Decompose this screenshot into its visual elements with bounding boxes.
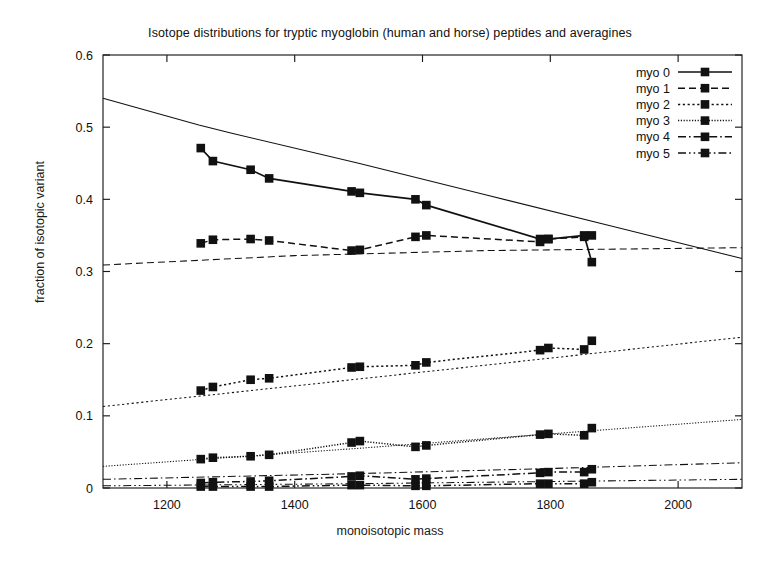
data-point — [422, 482, 431, 491]
y-tick-label: 0 — [86, 482, 93, 496]
legend-item-myo-0[interactable]: myo 0 — [636, 66, 732, 80]
data-point — [356, 481, 365, 490]
data-point — [536, 430, 545, 439]
legend-label: myo 4 — [636, 130, 670, 144]
legend-label: myo 1 — [636, 82, 670, 96]
data-point — [347, 472, 356, 481]
data-point — [347, 363, 356, 372]
data-point — [580, 468, 589, 477]
data-point — [411, 195, 420, 204]
data-point — [588, 465, 597, 474]
data-point — [209, 157, 218, 166]
data-point — [580, 479, 589, 488]
legend-label: myo 0 — [636, 66, 670, 80]
series-myo-3 — [196, 424, 596, 464]
data-point — [209, 383, 218, 392]
x-axis-title: monoisotopic mass — [0, 524, 780, 538]
x-tick-label: 2000 — [664, 498, 692, 512]
legend-marker-sample — [701, 100, 710, 109]
x-tick-label: 1600 — [409, 498, 437, 512]
series-myo-1 — [196, 231, 596, 255]
legend-marker-sample — [701, 149, 710, 158]
data-point — [544, 235, 553, 244]
legend-item-myo-5[interactable]: myo 5 — [636, 147, 732, 161]
x-tick-label: 1800 — [536, 498, 564, 512]
data-point — [265, 236, 274, 245]
data-point — [544, 430, 553, 439]
data-point — [265, 174, 274, 183]
legend-item-myo-4[interactable]: myo 4 — [636, 130, 732, 144]
series-path — [201, 341, 592, 391]
legend-marker-sample — [701, 68, 710, 77]
data-point — [265, 451, 274, 460]
x-tick-label: 1400 — [281, 498, 309, 512]
data-point — [580, 345, 589, 354]
data-point — [209, 482, 218, 491]
data-point — [347, 187, 356, 196]
data-point — [246, 482, 255, 491]
y-tick-label: 0.1 — [76, 409, 93, 423]
data-point — [246, 375, 255, 384]
plot-canvas: 00.10.20.30.40.50.612001400160018002000 … — [0, 0, 780, 561]
y-axis-title: fraction of isotopic variant — [33, 122, 47, 342]
legend-label: myo 2 — [636, 98, 670, 112]
data-point — [588, 231, 597, 240]
data-point — [265, 482, 274, 491]
data-point — [536, 469, 545, 478]
legend-item-myo-1[interactable]: myo 1 — [636, 82, 732, 96]
data-point — [588, 424, 597, 433]
data-point — [536, 479, 545, 488]
data-point — [588, 258, 597, 267]
data-point — [536, 238, 545, 247]
averagine-curve-myo-2-averagine — [103, 337, 742, 406]
data-point — [246, 235, 255, 244]
legend-marker-sample — [701, 116, 710, 125]
data-point — [347, 246, 356, 255]
data-point — [422, 231, 431, 240]
chart-page: Isotope distributions for tryptic myoglo… — [0, 0, 780, 561]
legend-marker-sample — [701, 133, 710, 142]
data-point — [347, 438, 356, 447]
data-point — [196, 455, 205, 464]
data-point — [356, 437, 365, 446]
data-series — [196, 144, 596, 491]
data-point — [196, 386, 205, 395]
data-point — [544, 479, 553, 488]
x-tick-label: 1200 — [153, 498, 181, 512]
y-tick-label: 0.4 — [76, 193, 93, 207]
data-point — [411, 233, 420, 242]
data-point — [196, 239, 205, 248]
data-point — [588, 336, 597, 345]
data-point — [580, 233, 589, 242]
series-path — [201, 482, 592, 486]
series-path — [201, 428, 592, 459]
legend-item-myo-3[interactable]: myo 3 — [636, 114, 732, 128]
y-tick-label: 0.6 — [76, 49, 93, 63]
chart-legend: myo 0myo 1myo 2myo 3myo 4myo 5 — [636, 66, 732, 161]
data-point — [411, 482, 420, 491]
data-point — [580, 431, 589, 440]
data-point — [356, 362, 365, 371]
data-point — [209, 235, 218, 244]
legend-item-myo-2[interactable]: myo 2 — [636, 98, 732, 112]
data-point — [411, 361, 420, 370]
legend-label: myo 5 — [636, 147, 670, 161]
data-point — [246, 165, 255, 174]
data-point — [196, 482, 205, 491]
data-point — [544, 468, 553, 477]
data-point — [422, 441, 431, 450]
data-point — [356, 246, 365, 255]
data-point — [356, 189, 365, 198]
legend-label: myo 3 — [636, 114, 670, 128]
legend-marker-sample — [701, 84, 710, 93]
data-point — [246, 452, 255, 461]
data-point — [196, 144, 205, 153]
y-tick-label: 0.2 — [76, 337, 93, 351]
y-tick-label: 0.5 — [76, 121, 93, 135]
data-point — [209, 453, 218, 462]
y-tick-label: 0.3 — [76, 265, 93, 279]
averagine-curve-myo-1-averagine — [103, 248, 742, 265]
data-point — [356, 471, 365, 480]
data-point — [544, 344, 553, 353]
data-point — [536, 346, 545, 355]
